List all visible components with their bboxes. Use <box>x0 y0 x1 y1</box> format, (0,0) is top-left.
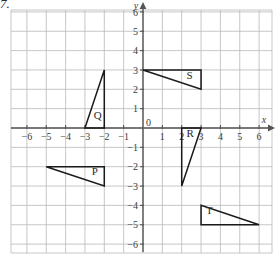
x-axis-label: x <box>261 114 267 125</box>
triangle-label-q: Q <box>94 109 102 121</box>
coordinate-grid-graph: −6−5−4−3−2−1123456654321−1−2−3−4−5−60 PQ… <box>0 0 277 261</box>
x-tick-label: −5 <box>41 131 52 142</box>
x-tick-label: 4 <box>218 131 223 142</box>
x-tick-label: −6 <box>22 131 33 142</box>
y-tick-label: 5 <box>133 26 138 37</box>
y-tick-label: −3 <box>127 181 138 192</box>
y-tick-label: 2 <box>133 84 138 95</box>
x-tick-label: 1 <box>160 131 165 142</box>
y-tick-label: −5 <box>127 219 138 230</box>
x-axis-arrow-icon <box>268 125 275 132</box>
shape-labels: PQRST <box>92 69 213 216</box>
y-tick-label: −4 <box>127 200 138 211</box>
x-tick-label: 6 <box>257 131 262 142</box>
y-tick-label: 1 <box>133 103 138 114</box>
axes <box>11 2 275 252</box>
x-tick-label: −4 <box>60 131 71 142</box>
y-axis-arrow-icon <box>140 2 147 9</box>
x-tick-label: −1 <box>118 131 129 142</box>
x-tick-label: 5 <box>237 131 242 142</box>
x-tick-label: −2 <box>99 131 110 142</box>
triangle-label-s: S <box>187 69 193 81</box>
y-tick-label: 3 <box>133 65 138 76</box>
y-tick-label: −2 <box>127 161 138 172</box>
origin-label: 0 <box>146 117 151 128</box>
y-tick-label: −1 <box>127 142 138 153</box>
y-axis-label: y <box>133 0 139 11</box>
triangle-label-r: R <box>187 127 195 139</box>
x-tick-label: −3 <box>80 131 91 142</box>
y-tick-label: 4 <box>133 45 138 56</box>
triangle-label-p: P <box>92 165 98 177</box>
worksheet-page: 7. −6−5−4−3−2−1123456654321−1−2−3−4−5−60… <box>0 0 277 261</box>
y-tick-label: −6 <box>127 239 138 250</box>
axis-names: xy <box>133 0 267 125</box>
triangle-label-t: T <box>206 204 213 216</box>
